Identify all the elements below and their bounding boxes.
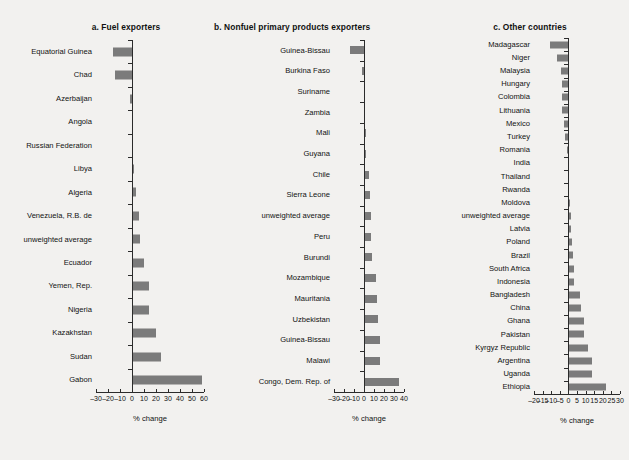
bar-row[interactable]: Algeria xyxy=(4,181,204,204)
x-axis-tick xyxy=(204,389,205,392)
bar-row[interactable]: Nigeria xyxy=(4,298,204,321)
bar-row[interactable]: Rwanda xyxy=(408,183,620,196)
bar[interactable] xyxy=(364,315,378,323)
bar[interactable] xyxy=(568,305,581,312)
bar-row[interactable]: Guinea-Bissau xyxy=(212,330,404,351)
bar-row[interactable]: Moldova xyxy=(408,196,620,209)
bar-row[interactable]: Sierra Leone xyxy=(212,185,404,206)
bar-row[interactable]: Zambia xyxy=(212,102,404,123)
bar[interactable] xyxy=(568,318,583,325)
bar-row[interactable]: Burundi xyxy=(212,247,404,268)
bar-row[interactable]: unweighted average xyxy=(408,209,620,222)
bar-row[interactable]: Turkey xyxy=(408,130,620,143)
bar-row[interactable]: Bangladesh xyxy=(408,288,620,301)
bar-track xyxy=(334,226,404,247)
bar-row[interactable]: Malaysia xyxy=(408,64,620,77)
bar-row[interactable]: Mozambique xyxy=(212,268,404,289)
bar[interactable] xyxy=(350,46,364,54)
bar[interactable] xyxy=(562,81,569,88)
bar-track xyxy=(334,81,404,102)
bar-row[interactable]: Ghana xyxy=(408,315,620,328)
bar-row[interactable]: Peru xyxy=(212,226,404,247)
bar[interactable] xyxy=(132,258,144,267)
category-label: Colombia xyxy=(408,93,534,101)
bar[interactable] xyxy=(568,344,588,351)
bar-row[interactable]: Guinea-Bissau xyxy=(212,40,404,61)
bar-row[interactable]: Madagascar xyxy=(408,38,620,51)
bar-row[interactable]: Chad xyxy=(4,63,204,86)
bar[interactable] xyxy=(132,376,202,385)
bar[interactable] xyxy=(364,378,399,386)
bar[interactable] xyxy=(115,71,132,80)
bar-row[interactable]: Equatorial Guinea xyxy=(4,40,204,63)
bar-row[interactable]: Angola xyxy=(4,110,204,133)
bar-row[interactable]: Azerbaijan xyxy=(4,87,204,110)
bar-row[interactable]: Indonesia xyxy=(408,275,620,288)
bar[interactable] xyxy=(364,357,380,365)
bar-row[interactable]: Poland xyxy=(408,236,620,249)
bar-row[interactable]: Brazil xyxy=(408,249,620,262)
bar-row[interactable]: Uzbekistan xyxy=(212,309,404,330)
bar-row[interactable]: Latvia xyxy=(408,222,620,235)
bar-row[interactable]: Hungary xyxy=(408,78,620,91)
bar-row[interactable]: Lithuania xyxy=(408,104,620,117)
bar[interactable] xyxy=(132,305,149,314)
bar[interactable] xyxy=(132,282,149,291)
bar[interactable] xyxy=(550,41,568,48)
bar-row[interactable]: unweighted average xyxy=(212,206,404,227)
bar-row[interactable]: Niger xyxy=(408,51,620,64)
bar-row[interactable]: Malawi xyxy=(212,351,404,372)
axis-tick xyxy=(564,38,568,39)
bar-row[interactable]: Mexico xyxy=(408,117,620,130)
bar-row[interactable]: Pakistan xyxy=(408,328,620,341)
bar[interactable] xyxy=(364,253,372,261)
bar-row[interactable]: Ecuador xyxy=(4,251,204,274)
bar-row[interactable]: Ethiopia xyxy=(408,380,620,393)
axis-tick xyxy=(360,102,364,103)
bar[interactable] xyxy=(364,336,380,344)
bar-row[interactable]: Mali xyxy=(212,123,404,144)
bar-row[interactable]: Congo, Dem. Rep. of xyxy=(212,371,404,392)
bar-row[interactable]: Mauritania xyxy=(212,288,404,309)
bar-track xyxy=(534,64,620,77)
bar[interactable] xyxy=(557,54,568,61)
bar[interactable] xyxy=(568,357,591,364)
bar[interactable] xyxy=(364,212,371,220)
bar-track xyxy=(334,61,404,82)
bar-row[interactable]: Kazakhstan xyxy=(4,321,204,344)
bar-row[interactable]: Thailand xyxy=(408,170,620,183)
bar-row[interactable]: South Africa xyxy=(408,262,620,275)
bar-row[interactable]: Russian Federation xyxy=(4,134,204,157)
bar-row[interactable]: India xyxy=(408,157,620,170)
bar-row[interactable]: Guyana xyxy=(212,144,404,165)
bar[interactable] xyxy=(568,331,584,338)
bar[interactable] xyxy=(562,107,569,114)
bar-row[interactable]: Yemen, Rep. xyxy=(4,275,204,298)
bar-row[interactable]: China xyxy=(408,301,620,314)
bar-row[interactable]: Colombia xyxy=(408,91,620,104)
bar-row[interactable]: Venezuela, R.B. de xyxy=(4,204,204,227)
bar[interactable] xyxy=(568,384,606,391)
bar-row[interactable]: Uganda xyxy=(408,367,620,380)
bar-row[interactable]: Romania xyxy=(408,143,620,156)
bar[interactable] xyxy=(568,370,592,377)
bar-row[interactable]: Burkina Faso xyxy=(212,61,404,82)
bar[interactable] xyxy=(364,295,377,303)
bar[interactable] xyxy=(364,274,376,282)
bar[interactable] xyxy=(132,235,140,244)
bar[interactable] xyxy=(132,329,156,338)
bar-row[interactable]: unweighted average xyxy=(4,228,204,251)
bar-row[interactable]: Sudan xyxy=(4,345,204,368)
bar-row[interactable]: Libya xyxy=(4,157,204,180)
bar[interactable] xyxy=(113,47,132,56)
bar-row[interactable]: Chile xyxy=(212,164,404,185)
category-label: Guinea-Bissau xyxy=(212,336,334,344)
bar[interactable] xyxy=(132,352,161,361)
bar[interactable] xyxy=(364,233,371,241)
bar-row[interactable]: Argentina xyxy=(408,354,620,367)
bar-row[interactable]: Kyrgyz Republic xyxy=(408,341,620,354)
bar[interactable] xyxy=(568,291,579,298)
bar-row[interactable]: Suriname xyxy=(212,81,404,102)
bar-row[interactable]: Gabon xyxy=(4,368,204,391)
bar[interactable] xyxy=(561,67,569,74)
